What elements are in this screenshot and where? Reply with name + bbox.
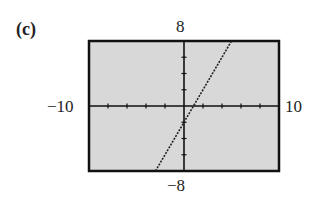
graph-window — [0, 0, 318, 197]
